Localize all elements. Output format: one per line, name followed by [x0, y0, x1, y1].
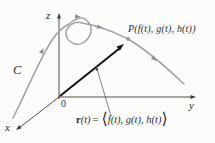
curve-label: C: [13, 64, 21, 77]
origin-label: 0: [61, 99, 66, 109]
right-angle-bracket: ⟩: [161, 111, 167, 127]
vector-components: f(t), g(t), h(t): [108, 115, 162, 126]
space-curve-figure: z y x 0 C P(f(t), g(t), h(t)) r (t) = ⟨ …: [0, 0, 215, 143]
z-axis-label: z: [46, 10, 50, 21]
equals-sign: =: [93, 115, 99, 126]
z-axis-arrow-icon: [57, 13, 61, 19]
vector-function-formula: r (t) = ⟨ f(t), g(t), h(t) ⟩: [76, 111, 168, 129]
x-axis-label: x: [5, 122, 10, 133]
point-p-label: P(f(t), g(t), h(t)): [128, 24, 196, 34]
position-vector: [60, 48, 120, 96]
vector-argument: (t): [81, 115, 91, 126]
x-axis-arrow-icon: [15, 125, 22, 132]
x-axis: [19, 97, 59, 128]
curve-direction-arrow-icons: [39, 14, 158, 63]
curve-arrow-exit-icon: [97, 25, 104, 31]
y-axis-label: y: [189, 100, 194, 111]
point-p-dot: [126, 37, 130, 41]
left-angle-bracket: ⟨: [102, 111, 108, 127]
